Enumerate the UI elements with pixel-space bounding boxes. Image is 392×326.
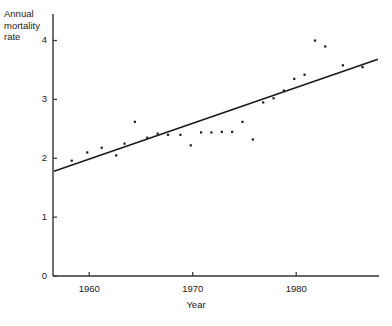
chart-figure: Annual mortality rate 01234 196019701980… [0, 0, 392, 326]
x-tick-label: 1970 [173, 283, 213, 294]
data-point [221, 131, 223, 133]
x-tick-label: 1960 [69, 283, 109, 294]
data-point [71, 160, 73, 162]
data-point [324, 45, 326, 47]
y-tick-label: 0 [27, 270, 47, 281]
axis-lines [53, 14, 379, 276]
data-point [146, 137, 148, 139]
data-point [231, 131, 233, 133]
data-point [272, 97, 274, 99]
data-point [283, 90, 285, 92]
data-point [252, 138, 254, 140]
data-point [303, 74, 305, 76]
data-point [134, 121, 136, 123]
data-point-markers [71, 39, 364, 161]
y-tick-label: 4 [27, 34, 47, 45]
data-point [361, 66, 363, 68]
data-point [200, 131, 202, 133]
data-point [190, 144, 192, 146]
scatter-plot-canvas [0, 0, 392, 326]
data-point [101, 147, 103, 149]
y-tick-label: 3 [27, 93, 47, 104]
data-point [262, 101, 264, 103]
y-tick-label: 2 [27, 152, 47, 163]
x-tick-label: 1980 [276, 283, 316, 294]
data-point [123, 143, 125, 145]
data-point [157, 133, 159, 135]
x-axis-title: Year [0, 299, 392, 310]
data-point [314, 39, 316, 41]
data-point [179, 134, 181, 136]
regression-trend-line [54, 59, 378, 171]
data-point [115, 154, 117, 156]
data-point [86, 151, 88, 153]
trend-line-segment [54, 59, 378, 171]
data-point [293, 78, 295, 80]
data-point [241, 121, 243, 123]
y-tick-label: 1 [27, 211, 47, 222]
data-point [210, 131, 212, 133]
data-point [342, 64, 344, 66]
data-point [167, 134, 169, 136]
